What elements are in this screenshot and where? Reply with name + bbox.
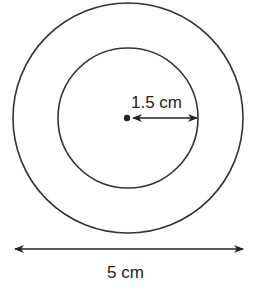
concentric-circles-diagram: 1.5 cm 5 cm <box>0 0 254 292</box>
diameter-label: 5 cm <box>107 263 144 282</box>
radius-label: 1.5 cm <box>131 93 182 112</box>
center-point <box>124 115 130 121</box>
